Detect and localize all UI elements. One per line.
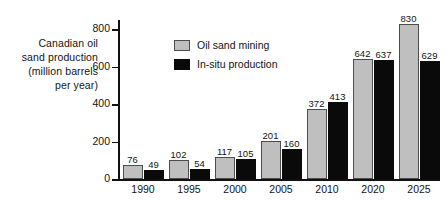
x-tick-label-2025: 2025 xyxy=(396,183,442,196)
y-axis-title-line-2: sand production xyxy=(8,50,98,64)
y-tick-mark xyxy=(112,179,118,181)
legend-label-insitu: In-situ production xyxy=(197,58,278,71)
bar-value-label: 102 xyxy=(171,149,187,160)
x-tick-label-2000: 2000 xyxy=(212,183,258,196)
y-tick-mark xyxy=(112,29,118,31)
y-axis-line xyxy=(118,20,120,179)
bar-value-label: 117 xyxy=(217,146,232,157)
y-tick-label: 800 xyxy=(92,22,110,35)
bar-insitu-1995: 54 xyxy=(190,169,210,179)
bar-value-label: 637 xyxy=(376,49,392,60)
bar-mining-2000: 117 xyxy=(215,157,235,179)
bar-value-label: 105 xyxy=(238,148,254,159)
bar-insitu-1990: 49 xyxy=(144,170,164,179)
y-tick-mark xyxy=(112,104,118,106)
legend-label-mining: Oil sand mining xyxy=(197,39,269,52)
bar-chart-figure: Canadian oil sand production (million ba… xyxy=(0,0,447,204)
bar-value-label: 372 xyxy=(309,98,325,109)
y-axis-title: Canadian oil sand production (million ba… xyxy=(8,36,98,92)
bar-insitu-2010: 413 xyxy=(328,102,348,179)
bar-value-label: 54 xyxy=(194,158,205,169)
legend-item-oil-sand-mining: Oil sand mining xyxy=(174,38,278,53)
bar-value-label: 642 xyxy=(355,48,371,59)
y-axis-title-line-3: (million barrels xyxy=(8,64,98,78)
legend-item-in-situ-production: In-situ production xyxy=(174,57,278,72)
bar-mining-2020: 642 xyxy=(353,59,373,179)
y-axis-title-line-1: Canadian oil xyxy=(8,36,98,50)
bar-value-label: 629 xyxy=(422,50,438,61)
bar-mining-2010: 372 xyxy=(307,109,327,179)
legend-swatch-icon-insitu xyxy=(174,59,190,70)
bar-group-1990: 7649 xyxy=(123,20,164,179)
bar-value-label: 830 xyxy=(401,13,417,24)
y-tick-label: 600 xyxy=(92,60,110,73)
bar-mining-1995: 102 xyxy=(169,160,189,179)
legend-swatch-icon-mining xyxy=(174,40,190,51)
bar-insitu-2000: 105 xyxy=(236,159,256,179)
plot-area: 0200400600800 76491025411710520116037241… xyxy=(118,20,440,179)
bar-value-label: 201 xyxy=(263,130,279,141)
bar-mining-1990: 76 xyxy=(123,165,143,179)
bar-group-2010: 372413 xyxy=(307,20,348,179)
y-tick-label: 0 xyxy=(104,172,110,185)
y-tick-label: 200 xyxy=(92,135,110,148)
x-tick-label-2020: 2020 xyxy=(350,183,396,196)
bar-value-label: 160 xyxy=(284,138,300,149)
x-tick-label-2010: 2010 xyxy=(304,183,350,196)
x-tick-label-1990: 1990 xyxy=(120,183,166,196)
bar-value-label: 49 xyxy=(148,159,159,170)
x-axis-line xyxy=(118,179,440,181)
y-axis-title-line-4: per year) xyxy=(8,78,98,92)
x-tick-label-2005: 2005 xyxy=(258,183,304,196)
bar-mining-2005: 201 xyxy=(261,141,281,179)
bar-insitu-2020: 637 xyxy=(374,60,394,179)
bar-mining-2025: 830 xyxy=(399,24,419,179)
bar-value-label: 413 xyxy=(330,91,346,102)
y-tick-label: 400 xyxy=(92,97,110,110)
bar-group-2025: 830629 xyxy=(399,20,440,179)
bar-value-label: 76 xyxy=(127,154,138,165)
legend: Oil sand mining In-situ production xyxy=(174,38,278,76)
bar-insitu-2025: 629 xyxy=(420,61,440,179)
bar-group-2020: 642637 xyxy=(353,20,394,179)
bar-insitu-2005: 160 xyxy=(282,149,302,179)
x-tick-label-1995: 1995 xyxy=(166,183,212,196)
y-tick-mark xyxy=(112,142,118,144)
y-tick-mark xyxy=(112,67,118,69)
